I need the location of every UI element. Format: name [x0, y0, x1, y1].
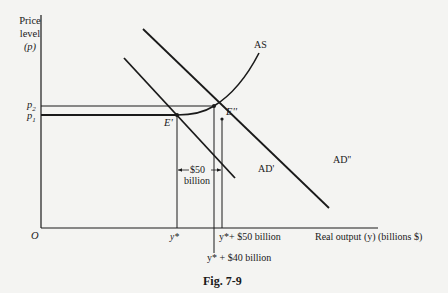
y-axis-label-line1: Price: [12, 14, 48, 27]
e-prime-point: [175, 113, 179, 117]
shift-marker-dot: [220, 117, 223, 120]
as-label: AS: [254, 39, 267, 51]
ad-prime-label: AD': [258, 163, 274, 175]
ad-double-prime-label: AD'': [333, 154, 351, 166]
y-axis-label-line3: (p): [12, 40, 48, 53]
y-axis-label-line2: level: [12, 27, 48, 40]
chart-canvas: [0, 0, 448, 293]
ystar40-tick-label: y* + $40 billion: [207, 252, 271, 264]
e-double-prime-label: E'': [226, 106, 237, 118]
e-prime-label: E': [164, 117, 173, 129]
ad-prime-line: [124, 58, 235, 178]
e-double-prime-point: [212, 104, 216, 108]
shift-arrowhead-left: [178, 168, 182, 171]
ystar-tick-label: y*: [170, 231, 179, 243]
p1-tick-label: p1: [27, 110, 36, 126]
figure-caption: Fig. 7-9: [203, 275, 242, 287]
x-axis-label: Real output (y) (billions $): [315, 231, 422, 243]
shift-arrowhead-right: [217, 168, 221, 171]
origin-label: O: [31, 230, 39, 242]
shift-unit-label: billion: [184, 175, 210, 187]
y-axis-label: Price level (p): [12, 14, 48, 53]
ystar50-tick-label: y*+ $50 billion: [219, 231, 281, 243]
